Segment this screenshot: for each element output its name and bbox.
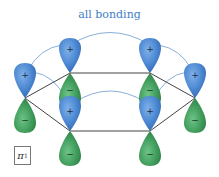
hexagon-ring <box>25 73 195 131</box>
arc-c6-c5 <box>75 91 145 102</box>
atom-c4: + − <box>184 63 206 133</box>
svg-text:−: − <box>146 85 154 95</box>
svg-text:+: + <box>191 70 199 80</box>
orbital-symbol: π <box>17 150 24 161</box>
orbital-subscript: 1 <box>24 152 28 159</box>
svg-text:−: − <box>191 115 199 125</box>
svg-text:+: + <box>21 70 29 80</box>
svg-text:−: − <box>21 115 29 125</box>
svg-text:−: − <box>146 149 154 159</box>
svg-text:−: − <box>66 149 74 159</box>
svg-text:+: + <box>66 106 74 116</box>
arc-c2-c3 <box>70 33 150 46</box>
benzene-orbital-drawing: + − + − + − + − + − <box>0 0 219 177</box>
svg-text:−: − <box>66 85 74 95</box>
atom-c1: + − <box>14 63 36 133</box>
svg-text:+: + <box>66 44 74 54</box>
overlap-arcs <box>28 33 192 103</box>
svg-text:+: + <box>146 44 154 54</box>
svg-text:+: + <box>146 106 154 116</box>
pi1-molecular-orbital-diagram: all bonding <box>0 0 219 177</box>
orbital-label-box: π1 <box>14 146 31 165</box>
